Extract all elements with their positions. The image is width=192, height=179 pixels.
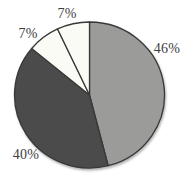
slice-label-46pct: 46% [154, 42, 180, 56]
slice-label-7pct-left: 7% [18, 27, 37, 41]
pie-chart-figure: 46% 40% 7% 7% [0, 0, 192, 179]
slice-label-40pct: 40% [13, 148, 39, 162]
slice-label-7pct-top: 7% [57, 7, 76, 21]
